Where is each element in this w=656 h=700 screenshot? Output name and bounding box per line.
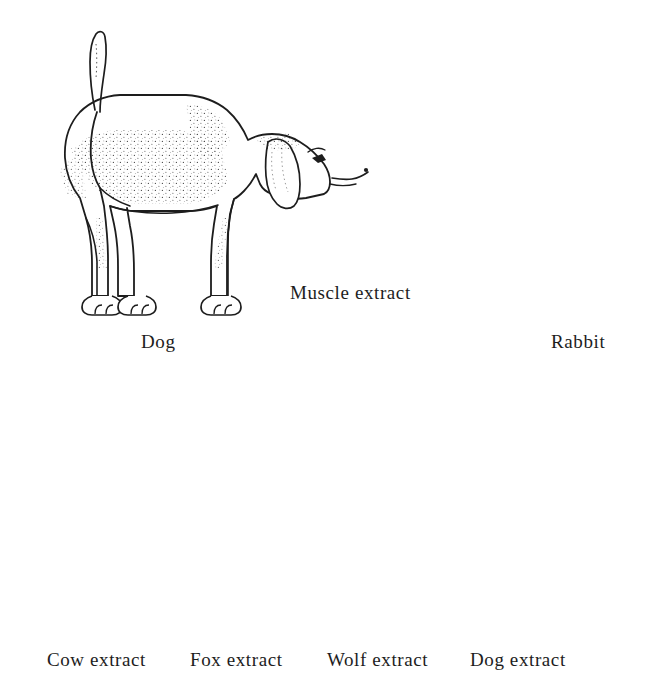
label-dog: Dog xyxy=(141,332,176,351)
label-tube-fox-extract: Fox extract xyxy=(190,650,283,669)
label-rabbit: Rabbit xyxy=(551,332,605,351)
label-muscle-extract: Muscle extract xyxy=(290,283,411,302)
label-tube-dog-extract: Dog extract xyxy=(470,650,566,669)
label-tube-cow-extract: Cow extract xyxy=(47,650,146,669)
label-tube-wolf-extract: Wolf extract xyxy=(327,650,428,669)
